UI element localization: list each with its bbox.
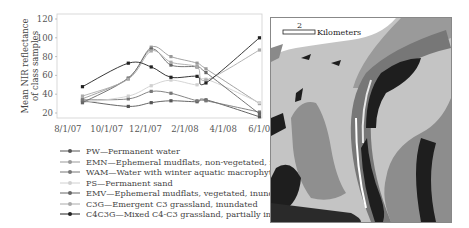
legend-marker-icon [58,147,82,155]
data-point [258,36,261,39]
legend-item-emv: EMV—Ephemeral mudflats, vegetated, inund… [58,188,278,199]
data-point [169,55,172,58]
data-point [169,79,172,82]
data-point [81,85,84,88]
y-tick-label: 60 [42,70,53,80]
data-point [204,79,207,82]
data-point [127,105,130,108]
data-point [81,101,84,104]
legend-item-pw: PW—Permanent water [58,146,278,157]
x-tick-label: 4/1/08 [209,124,236,134]
data-point [127,62,130,65]
data-point [169,61,172,64]
legend-marker-icon [58,210,82,218]
x-tick-label: 10/1/07 [90,124,123,134]
legend-label: WAM—Water with winter aquatic macrophyte… [86,167,281,177]
data-point [258,112,261,115]
scale-unit: Kilometers [317,28,361,37]
x-tick-label: 2/1/08 [171,124,198,134]
legend-item-ps: PS—Permanent sand [58,178,278,189]
data-point [195,83,198,86]
data-point [204,81,207,84]
data-point [195,62,198,65]
series-pw [81,98,261,118]
data-point [204,67,207,70]
scale-value: 2 [297,21,302,30]
data-point [81,94,84,97]
x-tick-label: 6/1/08 [248,124,270,134]
legend-marker-icon [58,168,82,176]
data-point [169,63,172,66]
legend-item-c3g: C3G—Emergent C3 grassland, inundated [58,199,278,210]
y-tick-label: 40 [42,89,53,99]
data-point [150,90,153,93]
data-point [258,48,261,51]
data-point [258,115,261,118]
data-point [195,75,198,78]
data-point [169,99,172,102]
legend-marker-icon [58,200,82,208]
y-tick-label: 20 [42,108,53,118]
legend-item-wam: WAM—Water with winter aquatic macrophyte… [58,167,278,178]
legend-marker-icon [58,179,82,187]
legend-label: PW—Permanent water [86,146,180,156]
x-tick-label: 12/1/07 [129,124,162,134]
y-tick-label: 80 [42,52,53,62]
legend-label: PS—Permanent sand [86,178,173,188]
series-emn [81,46,261,106]
data-point [195,65,198,68]
data-point [258,101,261,104]
data-point [81,98,84,101]
classification-map: 2 Kilometers [270,17,452,223]
nir-reflectance-chart: 204060801001208/1/0710/1/0712/1/072/1/08… [0,0,270,145]
data-point [204,99,207,102]
data-point [127,78,130,81]
data-point [204,71,207,74]
data-point [169,76,172,79]
legend-label: EMV—Ephemeral mudflats, vegetated, inund… [86,188,292,198]
data-point [150,84,153,87]
legend-marker-icon [58,189,82,197]
y-axis-label: Mean NIR reflectanceof class samples [20,18,40,113]
legend-item-emn: EMN—Ephemeral mudflats, non-vegetated, i… [58,157,278,168]
data-point [127,97,130,100]
legend-marker-icon [58,158,82,166]
data-point [195,99,198,102]
chart-legend: PW—Permanent waterEMN—Ephemeral mudflats… [58,146,278,220]
data-point [150,101,153,104]
data-point [150,65,153,68]
legend-item-c4c3g: C4C3G—Mixed C4-C3 grassland, partially i… [58,209,278,220]
legend-label: C3G—Emergent C3 grassland, inundated [86,199,258,209]
data-point [127,94,130,97]
x-tick-label: 8/1/07 [54,124,81,134]
y-tick-label: 120 [37,14,53,24]
data-point [150,49,153,52]
data-point [169,92,172,95]
